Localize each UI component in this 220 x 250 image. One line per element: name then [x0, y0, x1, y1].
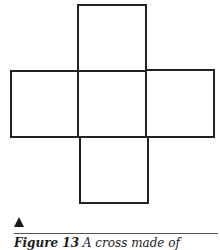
cross-diagram — [0, 0, 220, 210]
square-bottom — [80, 137, 148, 203]
caption-text: A cross made of — [79, 236, 180, 250]
square-center — [78, 71, 146, 137]
triangle-marker-icon — [14, 217, 24, 227]
caption-label: Figure 13 — [14, 236, 79, 250]
square-left — [11, 71, 78, 137]
figure-caption: Figure 13 A cross made of — [14, 236, 180, 250]
caption-divider — [14, 233, 218, 234]
square-top — [78, 5, 146, 71]
square-right — [146, 70, 214, 137]
